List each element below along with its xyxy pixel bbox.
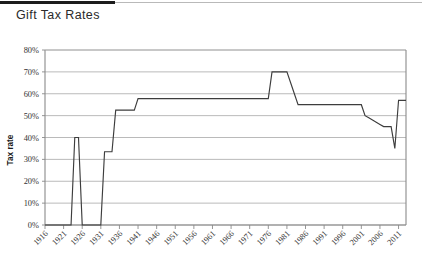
x-axis-tick-label: 2006 — [367, 229, 385, 247]
y-axis-tick-label: 10% — [24, 199, 39, 208]
x-axis-tick-label: 1971 — [236, 229, 254, 247]
x-axis-tick-label: 1996 — [329, 229, 347, 247]
x-axis-tick-label: 1946 — [143, 229, 161, 247]
y-axis-tick-label: 70% — [24, 68, 39, 77]
x-axis-tick-label: 2011 — [385, 229, 403, 247]
x-axis-tick-label: 1961 — [199, 229, 217, 247]
page-title: Gift Tax Rates — [16, 8, 100, 22]
x-axis-tick-label: 1976 — [255, 229, 273, 247]
x-axis-tick-label: 1951 — [162, 229, 180, 247]
x-axis-tick-label: 2001 — [348, 229, 366, 247]
x-axis-tick-marks — [45, 225, 399, 229]
x-axis-tick-labels: 1916192119261931193619411946195119561961… — [32, 229, 404, 247]
y-axis-tick-label: 60% — [24, 90, 39, 99]
x-axis-tick-label: 1966 — [218, 229, 236, 247]
y-axis-tick-labels: 0%10%20%30%40%50%60%70%80% — [24, 46, 39, 230]
y-axis-tick-label: 30% — [24, 155, 39, 164]
x-axis-tick-label: 1941 — [125, 229, 143, 247]
y-axis-tick-label: 20% — [24, 177, 39, 186]
y-axis-tick-label: 80% — [24, 46, 39, 55]
chart-figure: 0%10%20%30%40%50%60%70%80% 1916192119261… — [0, 32, 422, 263]
x-axis-tick-label: 1921 — [50, 229, 68, 247]
x-axis-tick-label: 1931 — [88, 229, 106, 247]
y-axis-title-group: Tax rate — [6, 134, 15, 165]
data-series-line — [45, 72, 406, 225]
gift-tax-rates-line-chart: 0%10%20%30%40%50%60%70%80% 1916192119261… — [0, 32, 422, 263]
data-series-group — [45, 72, 406, 225]
header-rule-dark-segment — [0, 1, 115, 4]
x-axis-tick-label: 1991 — [311, 229, 329, 247]
gridlines-group — [45, 50, 406, 225]
header-rule-light-segment — [115, 2, 422, 3]
x-axis-tick-label: 1916 — [32, 229, 50, 247]
y-axis-tick-label: 0% — [28, 221, 39, 230]
x-axis-tick-label: 1981 — [274, 229, 292, 247]
y-axis-tick-label: 50% — [24, 112, 39, 121]
header-rule — [0, 0, 422, 4]
y-axis-tick-label: 40% — [24, 134, 39, 143]
x-axis-tick-label: 1936 — [106, 229, 124, 247]
x-axis-tick-label: 1986 — [292, 229, 310, 247]
y-axis-title: Tax rate — [6, 134, 15, 165]
x-axis-tick-label: 1956 — [181, 229, 199, 247]
x-axis-tick-label: 1926 — [69, 229, 87, 247]
